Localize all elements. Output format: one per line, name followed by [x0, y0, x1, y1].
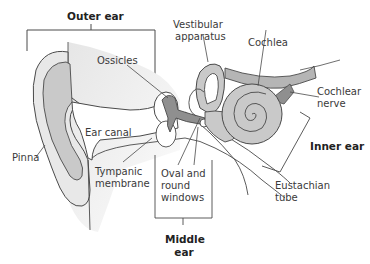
vestibular-apparatus-label-line1: Vestibular — [173, 19, 223, 31]
ossicles-label: Ossicles — [97, 55, 138, 67]
tympanic-membrane-label-line1: Tympanic — [95, 166, 142, 178]
middle-ear-label-line2: ear — [165, 246, 203, 258]
cochlea-label: Cochlea — [248, 37, 288, 49]
cochlear-nerve-label-line1: Cochlear — [317, 86, 361, 98]
cochlear-nerve-label-line2: nerve — [317, 98, 346, 110]
eustachian-tube-label-line2: tube — [275, 192, 298, 204]
oval-round-windows-label-line3: windows — [161, 192, 204, 204]
outer-ear-label: Outer ear — [67, 10, 124, 22]
oval-round-windows-label-line2: round — [161, 180, 190, 192]
eustachian-tube-label-line1: Eustachian — [275, 180, 330, 192]
pinna-label: Pinna — [12, 152, 39, 164]
vestibular-apparatus-label-line2: apparatus — [175, 31, 226, 43]
oval-round-windows-label-line1: Oval and — [161, 168, 206, 180]
inner-ear-label: Inner ear — [310, 140, 364, 152]
tympanic-membrane-label-line2: membrane — [95, 178, 150, 190]
middle-ear-label-line1: Middle — [165, 233, 203, 245]
ear-canal-label: Ear canal — [85, 127, 132, 139]
